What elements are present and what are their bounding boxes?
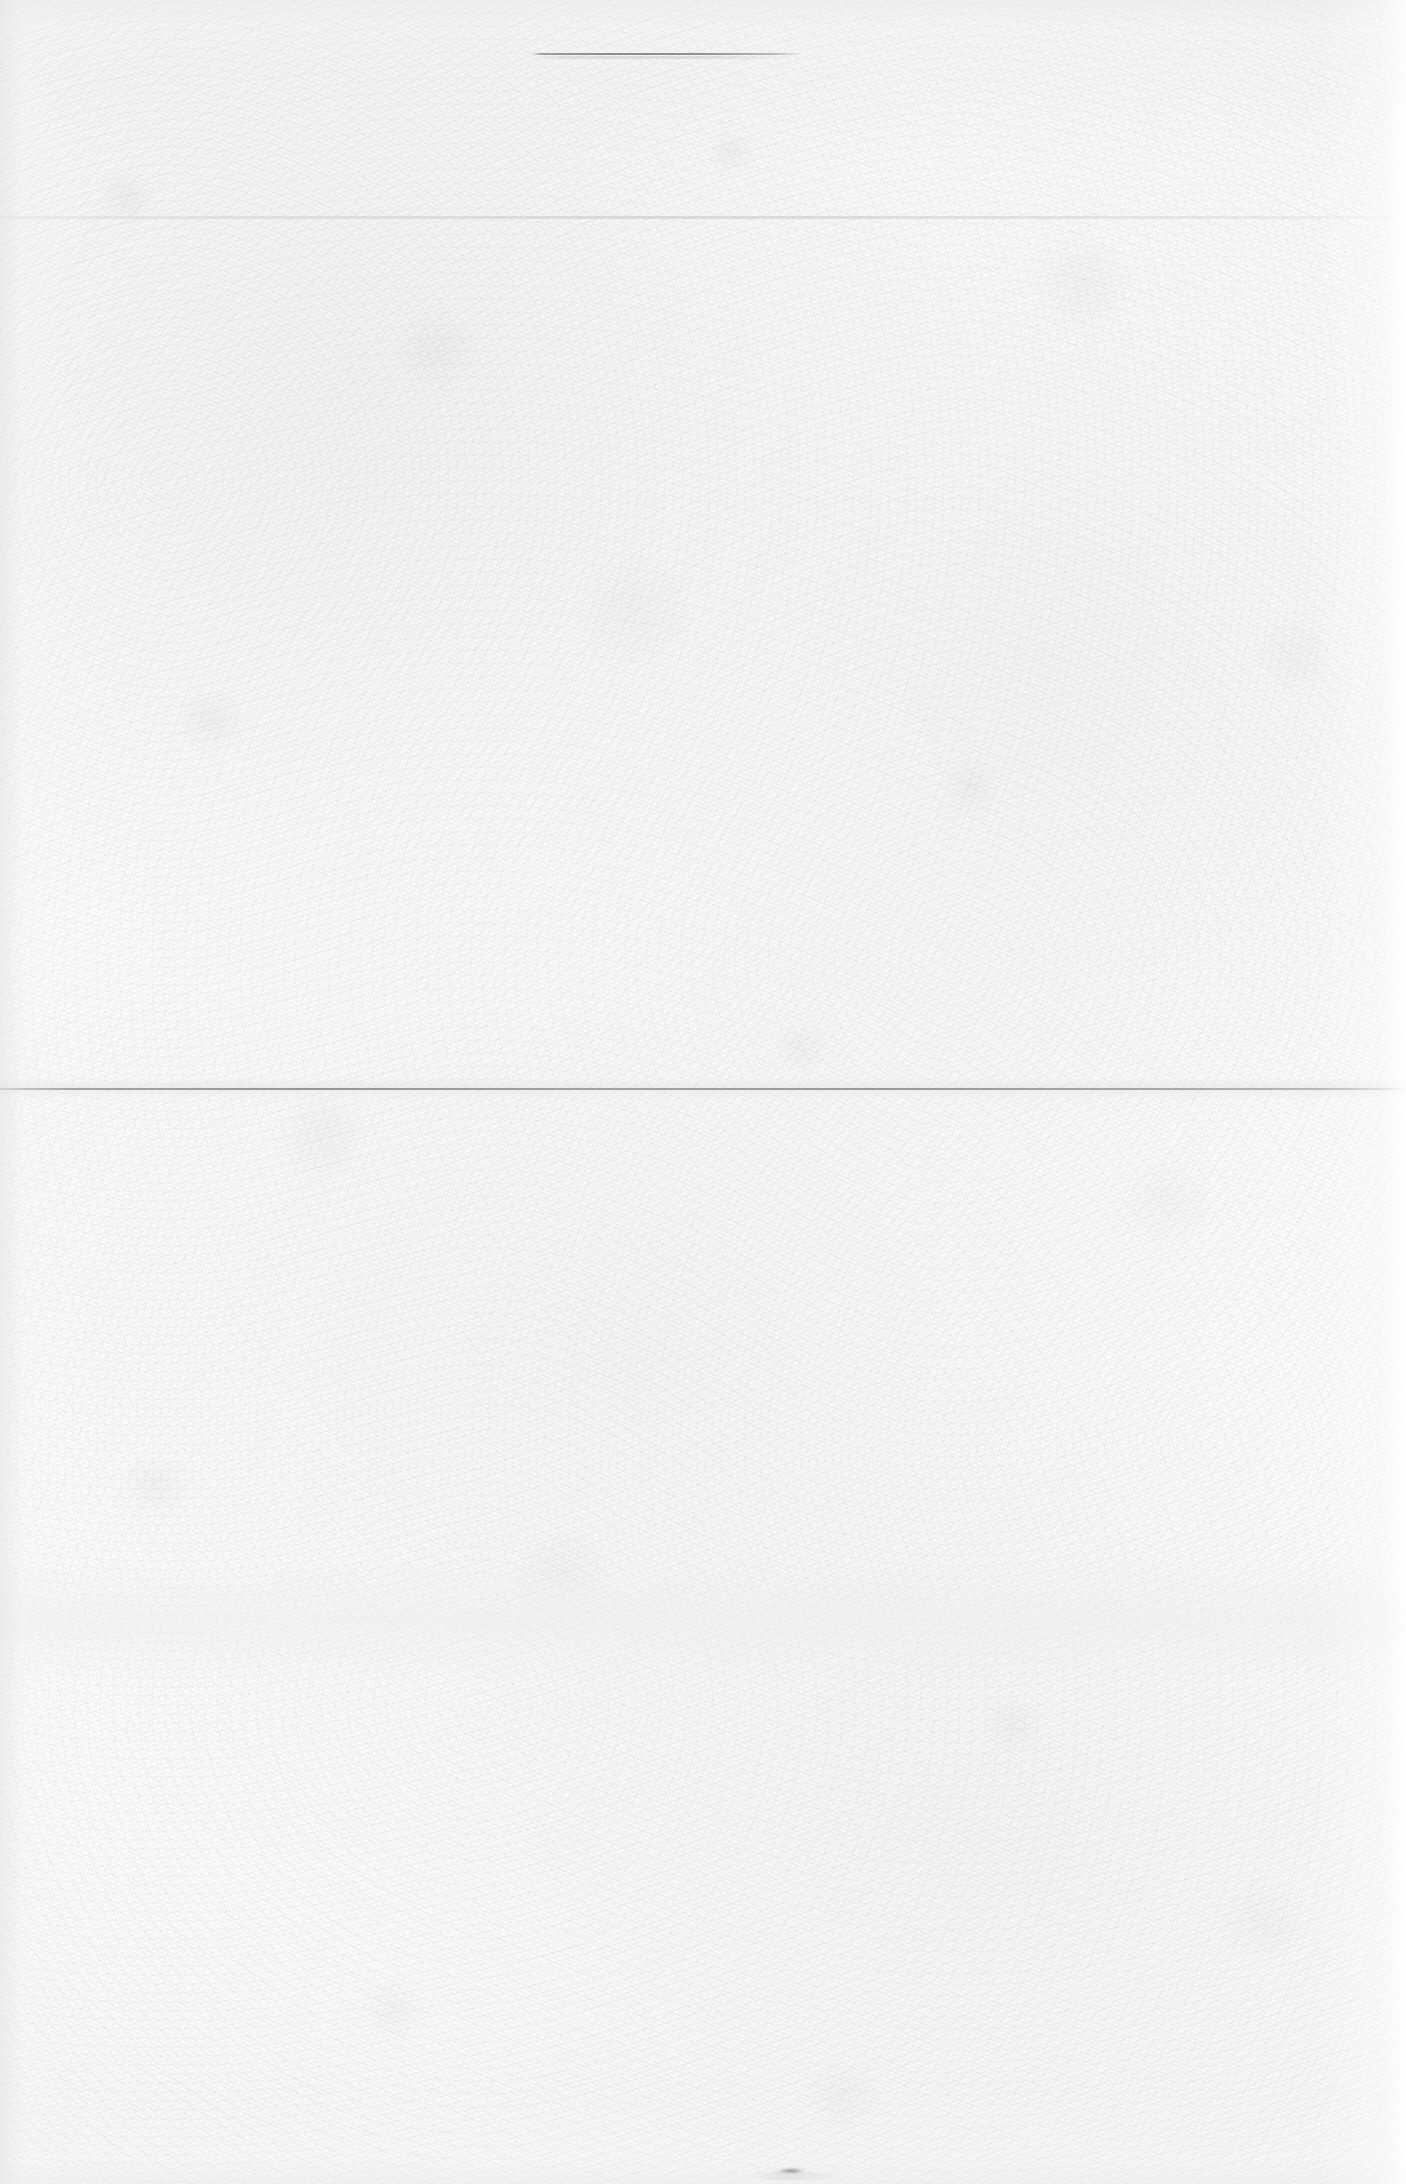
- top-horizontal-rule: [531, 53, 803, 55]
- bottom-ink-smudge: [772, 2166, 810, 2175]
- middle-fold-line: [0, 1088, 1406, 1090]
- top-horizontal-rule-shadow: [531, 56, 803, 59]
- upper-paper-crease: [0, 216, 1406, 219]
- lower-tonal-band: [0, 1560, 1406, 1680]
- scanned-page: [0, 0, 1406, 2184]
